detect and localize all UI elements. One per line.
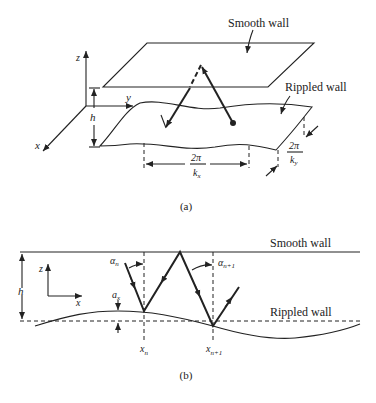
smooth-wall-pointer (247, 30, 253, 53)
traj-arrow-1 (130, 276, 135, 289)
trajectory-reflection-tail (161, 115, 166, 128)
amplitude-label: ax (112, 289, 121, 302)
alpha-n-arc (129, 264, 143, 268)
rippled-wall-label: Rippled wall (285, 80, 347, 94)
figure-b: Smooth wall Rippled wall h z x ax αn αn (18, 236, 360, 382)
ky-arrow-back (306, 126, 318, 137)
x-axis (43, 106, 86, 151)
rippled-wall-surface (100, 102, 312, 150)
ky-arrow-front (266, 166, 277, 176)
z-axis-label-b: z (38, 263, 43, 274)
z-axis-label: z (75, 52, 80, 63)
particle-start-dot (230, 120, 236, 126)
kx-denominator: kx (193, 167, 201, 180)
traj-arrow-3 (195, 285, 200, 297)
traj-arrow-4 (225, 297, 232, 307)
x-axis-label: x (34, 139, 40, 151)
smooth-wall-label: Smooth wall (228, 16, 290, 30)
rippled-wall-pointer (281, 96, 290, 114)
kx-numerator: 2π (191, 152, 202, 163)
traj-arrow-2 (161, 272, 168, 283)
h-label: h (90, 111, 96, 123)
xn1-label: xn+1 (205, 343, 222, 357)
figure-canvas: Smooth wall Rippled wall z y x h 2π kx (0, 0, 376, 403)
trajectory-hidden-segment (190, 65, 201, 87)
ky-numerator: 2π (289, 140, 300, 151)
xn-label: xn (139, 343, 148, 357)
alpha-n1-label: αn+1 (218, 257, 235, 270)
x-axis-label-b: x (75, 297, 81, 308)
trajectory-outgoing (166, 88, 190, 127)
h-label-b: h (18, 285, 24, 297)
figure-a: Smooth wall Rippled wall z y x h 2π kx (34, 16, 347, 213)
alpha-n1-arc (192, 265, 212, 270)
caption-b: (b) (180, 369, 193, 382)
rippled-wall-label-b: Rippled wall (270, 305, 332, 319)
smooth-wall-label-b: Smooth wall (270, 236, 332, 250)
alpha-n-label: αn (110, 255, 119, 268)
ky-denominator: ky (290, 154, 298, 167)
caption-a: (a) (180, 200, 193, 213)
trajectory-incoming (202, 67, 233, 123)
y-axis-label: y (125, 91, 131, 103)
